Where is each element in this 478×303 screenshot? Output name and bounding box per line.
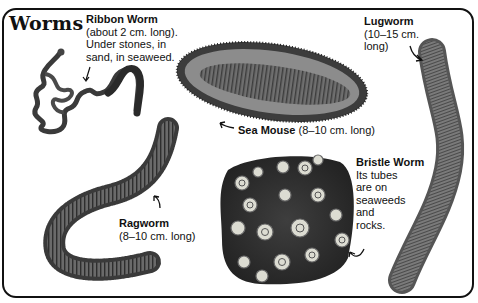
ragworm-illustration <box>54 128 168 270</box>
bristle-worm-pointer-arrow <box>349 249 364 257</box>
lugworm-line-2: long) <box>364 40 419 53</box>
bristle-worm-line-1: Its tubes <box>356 169 424 182</box>
ribbon-worm-line-2: Under stones, in <box>86 38 178 51</box>
bristle-worm-line-3: seaweeds <box>356 194 424 207</box>
ribbon-worm-pointer-arrow <box>83 67 90 81</box>
sea-mouse-size: (8–10 cm. long) <box>299 124 375 136</box>
ribbon-worm-name: Ribbon Worm <box>86 13 178 26</box>
ragworm-line-1: (8–10 cm. long) <box>119 230 195 243</box>
lugworm-caption: Lugworm (10–15 cm. long) <box>364 15 419 53</box>
ragworm-caption: Ragworm (8–10 cm. long) <box>119 217 195 242</box>
bristle-worm-rock-illustration <box>221 155 354 284</box>
sea-mouse-name: Sea Mouse <box>238 124 295 136</box>
ribbon-worm-line-1: (about 2 cm. long). <box>86 26 178 39</box>
sea-mouse-pointer-arrow <box>220 122 234 128</box>
bristle-worm-line-2: are on <box>356 181 424 194</box>
ribbon-worm-line-3: sand, in seaweed. <box>86 51 178 64</box>
ribbon-worm-caption: Ribbon Worm (about 2 cm. long). Under st… <box>86 13 178 63</box>
bristle-worm-name: Bristle Worm <box>356 156 424 169</box>
ragworm-name: Ragworm <box>119 217 195 230</box>
lugworm-line-1: (10–15 cm. <box>364 28 419 41</box>
ragworm-pointer-arrow <box>154 196 160 208</box>
page-title: Worms <box>9 12 83 34</box>
bristle-worm-line-5: rocks. <box>356 219 424 232</box>
lugworm-name: Lugworm <box>364 15 419 28</box>
bristle-worm-line-4: and <box>356 206 424 219</box>
sea-mouse-caption: Sea Mouse (8–10 cm. long) <box>238 124 375 136</box>
bristle-worm-caption: Bristle Worm Its tubes are on seaweeds a… <box>356 156 424 231</box>
sea-mouse-illustration <box>172 31 373 133</box>
